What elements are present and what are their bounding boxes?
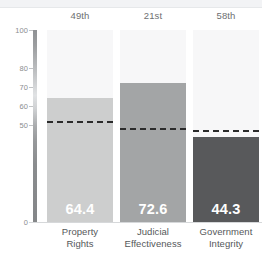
bar-property-rights[interactable]: 64.4 <box>47 98 113 222</box>
bar-value-government-integrity: 44.3 <box>193 201 259 217</box>
bar-government-integrity[interactable]: 44.3 <box>193 137 259 222</box>
top-border-strip <box>0 0 262 7</box>
top-border-line <box>0 7 262 8</box>
rank-label-row: 49th 21st 58th <box>44 10 262 26</box>
y-axis-label-70: 70 <box>6 83 28 92</box>
category-label-row: Property Rights Judicial Effectiveness G… <box>44 226 262 258</box>
reference-line-judicial-effectiveness <box>120 128 186 130</box>
category-label-line-2: Rights <box>38 238 122 250</box>
y-axis-gradient-spine <box>33 30 37 222</box>
rank-label-judicial-effectiveness: 21st <box>117 10 189 21</box>
category-label-line-1: Judicial <box>111 226 195 238</box>
category-label-line-2: Effectiveness <box>111 238 195 250</box>
reference-line-government-integrity <box>193 130 259 132</box>
category-label-judicial-effectiveness: Judicial Effectiveness <box>111 226 195 249</box>
bar-judicial-effectiveness[interactable]: 72.6 <box>120 83 186 222</box>
category-label-line-1: Government <box>184 226 262 238</box>
y-axis-label-50: 50 <box>6 121 28 130</box>
bar-column-property-rights: 64.4 <box>47 30 113 222</box>
y-axis-label-100: 100 <box>6 26 28 35</box>
category-label-line-2: Integrity <box>184 238 262 250</box>
bar-chart: 49th 21st 58th 100 80 70 60 50 0 64.4 72… <box>0 0 262 259</box>
category-label-government-integrity: Government Integrity <box>184 226 262 249</box>
y-axis-label-80: 80 <box>6 64 28 73</box>
bar-value-judicial-effectiveness: 72.6 <box>120 201 186 217</box>
x-axis-baseline <box>29 222 262 223</box>
plot-area: 64.4 72.6 44.3 <box>44 30 262 222</box>
category-label-property-rights: Property Rights <box>38 226 122 249</box>
bar-column-government-integrity: 44.3 <box>193 30 259 222</box>
rank-label-property-rights: 49th <box>44 10 116 21</box>
category-label-line-1: Property <box>38 226 122 238</box>
bar-value-property-rights: 64.4 <box>47 201 113 217</box>
y-axis-label-60: 60 <box>6 102 28 111</box>
rank-label-government-integrity: 58th <box>190 10 262 21</box>
y-axis-label-0: 0 <box>6 218 28 227</box>
reference-line-property-rights <box>47 121 113 123</box>
bar-column-judicial-effectiveness: 72.6 <box>120 30 186 222</box>
